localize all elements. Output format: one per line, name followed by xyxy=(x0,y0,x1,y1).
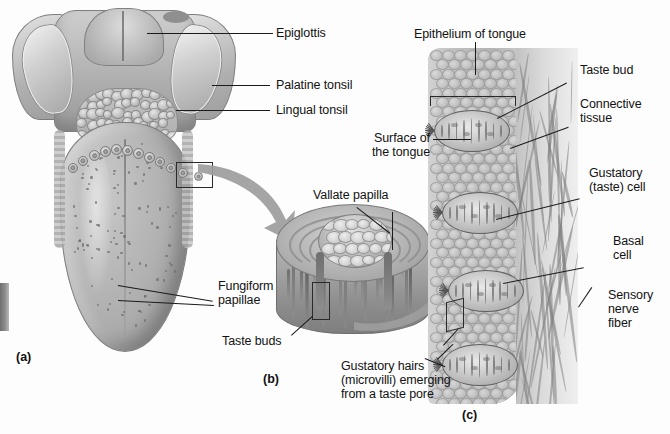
leader-epiglottis xyxy=(147,33,273,34)
label-sensory-nerve-l2: nerve xyxy=(608,302,639,317)
fungiform-papilla-dot xyxy=(117,207,119,209)
fungiform-papilla-dot xyxy=(148,304,150,306)
gustatory-cell-stripe xyxy=(493,203,495,222)
gustatory-cell-stripe xyxy=(485,121,487,140)
fungiform-papilla-dot xyxy=(128,262,130,264)
lingual-tonsil-nodule xyxy=(102,97,112,106)
label-gustatory-hairs-l1: Gustatory hairs xyxy=(341,359,424,374)
vallecula xyxy=(163,11,189,23)
fungiform-papilla-dot xyxy=(121,155,123,157)
gustatory-cell-stripe xyxy=(448,123,450,139)
gustatory-cell-stripe xyxy=(479,200,481,226)
label-taste-buds: Taste buds xyxy=(222,334,281,349)
fungiform-papilla-dot xyxy=(90,176,92,178)
cell-nucleus xyxy=(459,205,466,209)
fungiform-papilla-dot xyxy=(175,212,177,214)
label-sensory-nerve-l1: Sensory xyxy=(608,288,653,303)
pointer-box-gustatory-hairs xyxy=(446,298,464,332)
fungiform-papilla-dot xyxy=(113,237,115,239)
gustatory-cell-stripe xyxy=(493,355,495,374)
fungiform-papilla-dot xyxy=(165,255,167,257)
gustatory-hairs-2 xyxy=(436,281,450,299)
fungiform-papilla-dot xyxy=(109,303,111,305)
fungiform-papilla-dot xyxy=(141,143,143,145)
leader-palatine-tonsil xyxy=(212,85,270,86)
gustatory-cell-stripe xyxy=(455,285,457,297)
fungiform-papilla-dot xyxy=(143,173,145,175)
vallate-papilla-8 xyxy=(155,157,165,167)
vallate-papilla-5 xyxy=(122,145,133,156)
panel-label-a: (a) xyxy=(16,350,31,364)
label-lingual-tonsil: Lingual tonsil xyxy=(276,103,348,118)
gustatory-cell-stripe xyxy=(477,280,479,303)
gustatory-cell-stripe xyxy=(441,125,443,137)
vallate-papilla-7 xyxy=(144,152,155,163)
cell-nucleus xyxy=(459,357,466,361)
fungiform-papilla-dot xyxy=(115,243,117,245)
cell-nucleus xyxy=(489,283,496,287)
gustatory-cell-stripe xyxy=(471,202,473,225)
panel-label-c: (c) xyxy=(462,408,477,422)
fungiform-papilla-dot xyxy=(97,304,99,306)
vallate-papilla-9 xyxy=(166,163,176,173)
fungiform-papilla-dot xyxy=(98,248,100,250)
vallate-papilla-3 xyxy=(100,146,111,157)
fungiform-papilla-dot xyxy=(117,184,119,186)
fungiform-papilla-dot xyxy=(120,252,122,254)
fungiform-papilla-dot xyxy=(117,256,119,258)
fungiform-papilla-dot xyxy=(114,213,116,215)
lingual-tonsil-nodule xyxy=(158,118,169,127)
fungiform-papilla-dot xyxy=(167,206,169,208)
lateral-folds-left xyxy=(54,130,65,248)
label-fungiform-line1: Fungiform xyxy=(218,279,273,294)
cell-nucleus xyxy=(495,366,502,370)
fungiform-papilla-dot xyxy=(136,166,138,168)
label-surface-of-tongue-l2: the tongue xyxy=(330,145,430,160)
label-gustatory-hairs-l2: (microvilli) emerging xyxy=(341,373,451,388)
fungiform-papilla-dot xyxy=(144,319,146,321)
fungiform-papilla-dot xyxy=(135,324,137,326)
leader-sensory-nerve-fiber xyxy=(578,287,592,307)
gustatory-hairs-1 xyxy=(430,203,444,221)
block-tissue-streak xyxy=(287,269,290,303)
gustatory-cell-stripe xyxy=(462,283,464,299)
block-tissue-streak xyxy=(300,267,303,305)
zoom-box-panel-b xyxy=(312,282,330,320)
label-palatine-tonsil: Palatine tonsil xyxy=(276,78,352,93)
panel-label-b: (b) xyxy=(263,372,279,386)
fungiform-papilla-dot xyxy=(156,278,158,280)
label-taste-bud: Taste bud xyxy=(580,63,633,78)
label-sensory-nerve-l3: fiber xyxy=(608,316,632,331)
fungiform-papilla-dot xyxy=(82,244,84,246)
fungiform-papilla-dot xyxy=(120,232,122,234)
connective-tissue-fiber xyxy=(570,61,572,124)
cell-nucleus xyxy=(477,292,484,296)
vallate-papilla-crown xyxy=(318,214,392,268)
fungiform-papilla-dot xyxy=(77,247,79,249)
fungiform-papilla-dot xyxy=(89,220,91,222)
fungiform-papilla-dot xyxy=(169,226,171,228)
tongue-taste-bud-figure: Epiglottis Palatine tonsil Lingual tonsi… xyxy=(0,0,670,434)
gustatory-cell-stripe xyxy=(449,207,451,219)
leader-vallate-papilla-v xyxy=(392,212,393,250)
cell-nucleus xyxy=(463,132,470,136)
fungiform-papilla-dot xyxy=(156,226,158,228)
fungiform-papilla-dot xyxy=(146,211,148,213)
taste-bud-1 xyxy=(442,192,518,234)
leader-surface-of-tongue xyxy=(433,139,471,140)
fungiform-papilla-dot xyxy=(100,157,102,159)
vallate-papilla-0 xyxy=(68,163,78,173)
fungiform-papilla-dot xyxy=(128,243,130,245)
fungiform-papilla-dot xyxy=(128,171,130,173)
fungiform-papilla-dot xyxy=(170,264,172,266)
fungiform-papilla-dot xyxy=(142,180,144,182)
cell-nucleus xyxy=(483,357,490,361)
leader-lingual-tonsil xyxy=(176,110,270,111)
vallate-papilla-6 xyxy=(133,148,144,159)
fungiform-papilla-dot xyxy=(117,156,119,158)
fungiform-papilla-dot xyxy=(148,167,150,169)
fungiform-papilla-dot xyxy=(74,215,76,217)
gustatory-cell-stripe xyxy=(508,207,510,219)
connective-tissue-fiber xyxy=(534,157,548,251)
gustatory-cell-stripe xyxy=(449,359,451,371)
